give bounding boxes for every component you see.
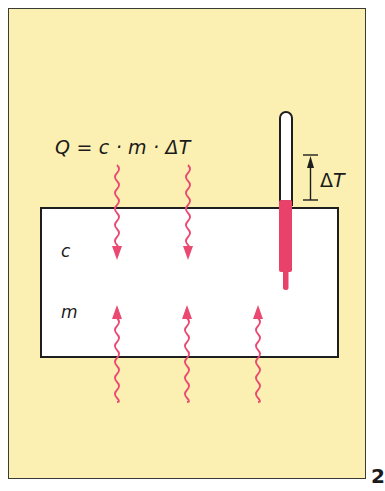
delta-symbol: Δ	[320, 169, 333, 191]
temperature-symbol: T	[333, 169, 345, 191]
heat-formula: Q = c · m · ΔT	[55, 136, 191, 158]
page-number: 2	[371, 464, 385, 488]
thermometer-icon	[279, 112, 292, 290]
mass-label: m	[61, 302, 78, 322]
delta-t-label: ΔT	[320, 169, 345, 191]
specific-heat-label: c	[61, 241, 70, 261]
delta-t-dimension	[303, 155, 318, 200]
